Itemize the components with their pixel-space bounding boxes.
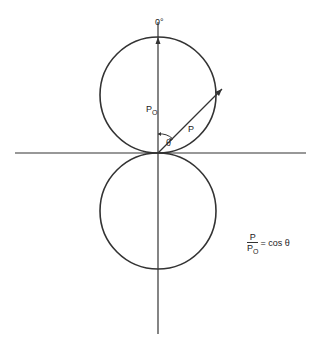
- fraction-numerator: P: [250, 233, 256, 242]
- p0-arrowhead: [156, 37, 161, 44]
- formula: P PO = cos θ: [247, 233, 290, 255]
- theta-label: θ: [166, 139, 171, 148]
- p0-label: PO: [146, 105, 157, 116]
- den-subscript: O: [253, 248, 258, 255]
- fraction: P PO: [247, 233, 258, 255]
- p-label: P: [188, 125, 194, 134]
- polar-pattern-diagram: [0, 0, 324, 349]
- formula-rhs: = cos θ: [260, 239, 289, 248]
- zero-degree-label: 0°: [155, 18, 164, 27]
- p0-subscript: O: [152, 109, 157, 116]
- fraction-denominator: PO: [247, 242, 258, 255]
